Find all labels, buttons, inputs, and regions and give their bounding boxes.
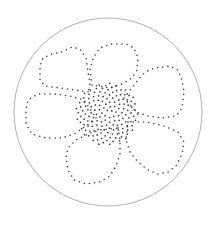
center-dot [109, 101, 111, 103]
petal-dot [72, 142, 74, 144]
petal-dot [34, 95, 36, 97]
center-dot [92, 140, 94, 142]
center-dot [125, 89, 127, 91]
petal-dot [136, 70, 138, 72]
center-dot [93, 96, 95, 98]
center-dot [132, 96, 134, 98]
center-dot [112, 91, 114, 93]
center-dot [76, 108, 78, 110]
center-dot [118, 119, 120, 121]
center-dot [114, 101, 116, 103]
center-dot [104, 115, 106, 117]
petal-dot [67, 166, 69, 168]
center-dot [85, 105, 87, 107]
center-dot [106, 110, 108, 112]
center-dot [94, 92, 96, 94]
center-dot [121, 123, 123, 125]
petal-dot [136, 55, 138, 57]
petal-dot [56, 52, 58, 54]
petal-dot [132, 121, 134, 123]
center-dot [89, 102, 91, 104]
center-dot [83, 118, 85, 120]
petal-dot [67, 88, 69, 90]
center-dot [109, 127, 111, 129]
petal-dot [39, 135, 41, 137]
petal-dot [106, 45, 108, 47]
center-dot [76, 118, 78, 120]
center-dot [109, 82, 111, 84]
petal-dot [116, 43, 118, 45]
petal-dot [49, 93, 51, 95]
center-dot [80, 122, 82, 124]
center-dot [115, 137, 117, 139]
center-dot [120, 94, 122, 96]
center-dot [101, 112, 103, 114]
petal-dot [138, 121, 140, 123]
petal-dot [172, 67, 174, 69]
center-dot [109, 143, 111, 145]
center-dot [85, 113, 87, 115]
petal-dot [127, 101, 129, 103]
center-dot [109, 94, 111, 96]
petal-dot [90, 132, 92, 134]
petal-dot [30, 131, 32, 133]
center-dot [118, 108, 120, 110]
petal-dot [70, 95, 72, 97]
center-dot [96, 124, 98, 126]
center-dot [101, 121, 103, 123]
center-dot [118, 115, 120, 117]
center-dot [107, 89, 109, 91]
center-dot [98, 143, 100, 145]
center-dot [114, 120, 116, 122]
petal-dot [46, 85, 48, 87]
petal-dot [110, 128, 112, 130]
petal-dot [66, 161, 68, 163]
petal-dot [121, 83, 123, 85]
petal-dot [80, 49, 82, 51]
center-dot [121, 112, 123, 114]
petal-dot [126, 136, 128, 138]
center-dot [106, 124, 108, 126]
center-dot [131, 125, 133, 127]
petal-dot [130, 89, 132, 91]
petal-dot [119, 137, 121, 139]
center-dot [111, 110, 113, 112]
petal-dot [178, 160, 180, 162]
center-dot [125, 114, 127, 116]
center-dot [135, 119, 137, 121]
center-dot [127, 110, 129, 112]
petal-dot [94, 54, 96, 56]
center-dot [87, 120, 89, 122]
petal-dot [126, 131, 128, 133]
petal-dot [114, 168, 116, 170]
center-dot [118, 99, 120, 101]
petal-dot [101, 47, 103, 49]
petal-dot [129, 151, 131, 153]
petal-dot [142, 114, 144, 116]
center-dot [130, 112, 132, 114]
petal-dot [139, 77, 141, 79]
center-dot [126, 133, 128, 135]
petal-dot [71, 175, 73, 177]
petal-dot [119, 153, 121, 155]
petal-dot [162, 66, 164, 68]
center-dot [97, 99, 99, 101]
petal-dot [81, 136, 83, 138]
center-dot [99, 109, 101, 111]
petal-dot [42, 83, 44, 85]
center-dot [84, 93, 86, 95]
petal-dot [59, 137, 61, 139]
petal-dot [106, 87, 108, 89]
center-dot [112, 124, 114, 126]
petal-dot [54, 93, 56, 95]
petal-dot [177, 69, 179, 71]
petal-dot [87, 124, 89, 126]
petal-dot [84, 183, 86, 185]
petal-dot [163, 117, 165, 119]
petal-dot [83, 53, 85, 55]
center-dot [99, 116, 101, 118]
petal-dot [87, 68, 89, 70]
center-dot [120, 89, 122, 91]
center-dot [132, 129, 134, 131]
center-dot [80, 115, 82, 117]
